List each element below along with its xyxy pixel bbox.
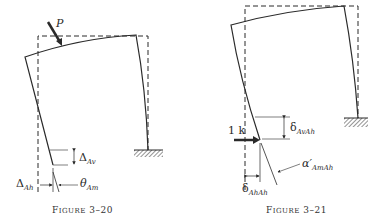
fixed-support-hatch bbox=[134, 150, 163, 157]
delta-symbol: Δ bbox=[16, 177, 24, 190]
alpha-amah-subscript: AmAh bbox=[312, 164, 333, 172]
theta-symbol: θ bbox=[80, 177, 87, 190]
load-p-label: P bbox=[56, 18, 63, 29]
delta-avah-label: δAvAh bbox=[290, 122, 315, 136]
delta-ah-label: ΔAh bbox=[16, 178, 34, 192]
figure-3-21-caption: FIGURE 3–21 bbox=[266, 205, 327, 215]
caption-number: 3–21 bbox=[303, 205, 327, 215]
caption-rest: IGURE bbox=[273, 207, 300, 215]
theta-am-label: θAm bbox=[80, 178, 98, 192]
delta-ah-subscript: Ah bbox=[24, 184, 34, 192]
fixed-support-hatch bbox=[344, 118, 368, 127]
delta-symbol: δ bbox=[242, 182, 249, 195]
delta-ahah-label: δAhAh bbox=[242, 183, 268, 197]
undeformed-frame bbox=[38, 36, 148, 192]
delta-ahah-subscript: AhAh bbox=[249, 189, 268, 197]
deformed-frame bbox=[231, 6, 358, 140]
theta-am-subscript: Am bbox=[87, 184, 99, 192]
delta-symbol: Δ bbox=[79, 151, 87, 164]
alpha-amah-label: α′AmAh bbox=[302, 158, 333, 172]
caption-initial: F bbox=[52, 205, 59, 215]
delta-av-label: ΔAv bbox=[79, 152, 96, 166]
delta-av-subscript: Av bbox=[87, 158, 96, 166]
frame-diagrams bbox=[0, 0, 382, 221]
alpha-prime-symbol: α′ bbox=[302, 157, 312, 170]
unit-load-label: 1 k bbox=[228, 125, 245, 136]
deformed-frame bbox=[25, 35, 148, 165]
caption-number: 3–20 bbox=[89, 205, 113, 215]
caption-initial: F bbox=[266, 205, 273, 215]
figure-3-20-caption: FIGURE 3–20 bbox=[52, 205, 113, 215]
figure-3-21-drawing bbox=[231, 6, 368, 190]
figure-3-20-drawing bbox=[25, 22, 163, 192]
delta-avah-subscript: AvAh bbox=[297, 128, 315, 136]
delta-symbol: δ bbox=[290, 121, 297, 134]
caption-rest: IGURE bbox=[59, 207, 86, 215]
